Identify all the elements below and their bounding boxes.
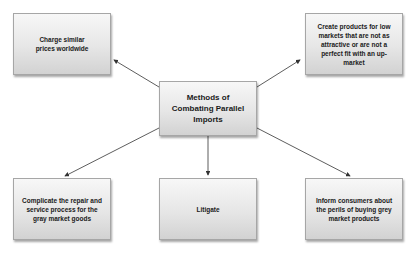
diagram-canvas: Charge similar prices worldwide Create p… bbox=[0, 0, 416, 256]
node-top-left: Charge similar prices worldwide bbox=[13, 13, 111, 75]
node-bottom-center: Litigate bbox=[159, 178, 257, 240]
node-label: Litigate bbox=[196, 205, 219, 214]
node-label: Complicate the repair and service proces… bbox=[20, 196, 104, 223]
center-label: Methods of Combating Parallel Imports bbox=[166, 92, 250, 125]
node-label: Charge similar prices worldwide bbox=[20, 35, 104, 53]
node-bottom-right: Inform consumers about the perils of buy… bbox=[305, 178, 403, 240]
node-label: Inform consumers about the perils of buy… bbox=[312, 196, 396, 223]
arrow-to-top-left bbox=[114, 60, 159, 87]
arrow-to-bottom-right bbox=[257, 128, 350, 176]
node-bottom-left: Complicate the repair and service proces… bbox=[13, 178, 111, 240]
node-label: Create products for low markets that are… bbox=[312, 22, 396, 67]
node-center: Methods of Combating Parallel Imports bbox=[159, 81, 257, 136]
arrow-to-bottom-left bbox=[65, 128, 159, 176]
arrow-to-top-right bbox=[257, 60, 300, 87]
node-top-right: Create products for low markets that are… bbox=[305, 13, 403, 75]
